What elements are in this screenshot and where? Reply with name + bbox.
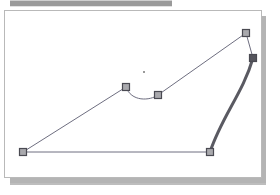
path-handle-anchor-top-right[interactable] (243, 30, 250, 37)
path-handle-anchor-right[interactable] (250, 55, 257, 62)
segment-right-bow[interactable] (210, 58, 253, 152)
path-handle-anchor-bottom-left[interactable] (20, 149, 27, 156)
segment-arc-dip[interactable] (126, 87, 158, 99)
segment-layer (23, 33, 253, 152)
path-handle-anchor-bottom-right[interactable] (207, 149, 214, 156)
segment-left-diagonal[interactable] (23, 87, 126, 152)
path-handle-anchor-mid-valley[interactable] (155, 92, 162, 99)
path-handle-anchor-mid-peak[interactable] (123, 84, 130, 91)
reference-point[interactable] (143, 71, 145, 73)
marker-layer (143, 71, 145, 73)
segment-right-diagonal[interactable] (158, 33, 246, 95)
path-layer[interactable] (0, 0, 280, 195)
app-root (0, 0, 280, 195)
handle-layer (20, 30, 257, 156)
